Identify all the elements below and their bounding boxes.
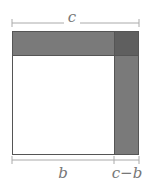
label-b: b bbox=[58, 164, 68, 182]
bottom-dimension-line bbox=[12, 156, 139, 164]
top-band bbox=[13, 32, 115, 56]
label-c-minus-b: c−b bbox=[112, 164, 143, 182]
corner-square bbox=[115, 32, 139, 56]
right-strip bbox=[115, 56, 139, 155]
label-c: c bbox=[68, 8, 77, 26]
square-difference-diagram: c b c−b bbox=[0, 0, 151, 193]
